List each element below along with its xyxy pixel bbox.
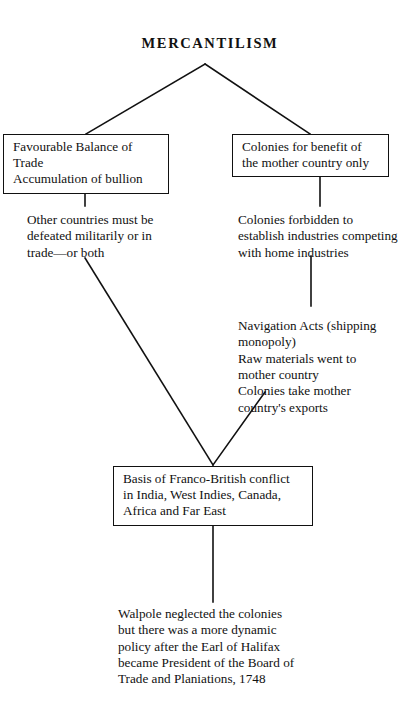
node-navigation-acts: Navigation Acts (shipping monopoly) Raw … (238, 318, 418, 416)
node-favourable-balance-of-trade: Favourable Balance of Trade Accumulation… (3, 134, 169, 194)
edge-title-to-colonies-benefit (205, 64, 310, 134)
node-basis-of-franco-british-conflict: Basis of Franco-British conflict in Indi… (113, 466, 313, 526)
page-title: MERCANTILISM (101, 36, 319, 52)
node-colonies-for-benefit: Colonies for benefit of the mother count… (232, 134, 389, 177)
node-colonies-forbidden-industries: Colonies forbidden to establish industri… (238, 212, 418, 261)
node-other-countries-defeated: Other countries must be defeated militar… (27, 212, 207, 261)
node-walpole-neglected-colonies: Walpole neglected the colonies but there… (118, 606, 338, 688)
edge-other-countries-to-franco-british (85, 258, 213, 465)
edge-title-to-balance-of-trade (86, 64, 205, 134)
diagram-page: MERCANTILISM Favourable Balance of Trade… (0, 0, 419, 701)
